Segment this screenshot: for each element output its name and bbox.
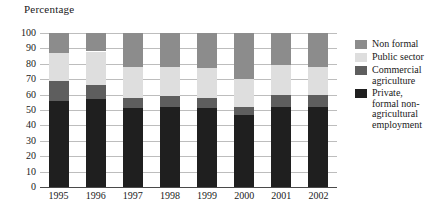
bar-2002[interactable] — [308, 33, 328, 187]
legend-label-public_sector: Public sector — [372, 52, 441, 63]
x-tick-2000: 2000 — [234, 190, 254, 201]
y-tick-50: 50 — [0, 105, 36, 115]
bar-segment — [160, 33, 180, 67]
bar-segment — [86, 52, 106, 86]
bar-segment — [308, 67, 328, 95]
bar-segment — [123, 98, 143, 109]
y-axis-title: Percentage — [24, 3, 74, 15]
x-tick-1998: 1998 — [160, 190, 180, 201]
y-tick-60: 60 — [0, 90, 36, 100]
bar-segment — [160, 67, 180, 96]
bar-segment — [308, 95, 328, 107]
bar-segment — [308, 33, 328, 67]
legend-swatch-public_sector — [355, 53, 367, 62]
bar-segment — [234, 79, 254, 107]
x-tick-1996: 1996 — [86, 190, 106, 201]
bar-segment — [86, 99, 106, 187]
y-tick-30: 30 — [0, 136, 36, 146]
bar-1997[interactable] — [123, 33, 143, 187]
bar-segment — [86, 85, 106, 99]
bar-segment — [197, 98, 217, 109]
legend-item-private_formal[interactable]: Private, formal non- agricultural employ… — [355, 88, 441, 130]
bar-1995[interactable] — [49, 33, 69, 187]
chart-figure: Percentage 1009080706050403020100 199519… — [0, 0, 442, 215]
bar-1996[interactable] — [86, 33, 106, 187]
bar-segment — [49, 53, 69, 81]
bar-segment — [308, 107, 328, 187]
x-tick-1997: 1997 — [123, 190, 143, 201]
x-axis-tick-labels: 19951996199719981999200020012002 — [40, 190, 337, 210]
legend-label-non_formal: Non formal — [372, 39, 441, 50]
bar-segment — [49, 81, 69, 101]
bar-segment — [123, 108, 143, 187]
x-tick-2001: 2001 — [271, 190, 291, 201]
legend-label-commercial_agriculture: Commercial agriculture — [372, 65, 441, 86]
bar-segment — [234, 33, 254, 79]
bar-1998[interactable] — [160, 33, 180, 187]
bar-segment — [271, 33, 291, 65]
y-tick-0: 0 — [0, 182, 36, 192]
legend-item-public_sector[interactable]: Public sector — [355, 52, 441, 63]
legend-item-commercial_agriculture[interactable]: Commercial agriculture — [355, 65, 441, 86]
x-tick-2002: 2002 — [308, 190, 328, 201]
bar-segment — [197, 108, 217, 187]
bar-segment — [123, 67, 143, 98]
bar-segment — [49, 33, 69, 53]
bar-1999[interactable] — [197, 33, 217, 187]
y-axis-tick-labels: 1009080706050403020100 — [0, 33, 36, 187]
bar-segment — [271, 95, 291, 107]
y-tick-80: 80 — [0, 59, 36, 69]
y-tick-10: 10 — [0, 167, 36, 177]
y-tick-20: 20 — [0, 151, 36, 161]
bar-group — [40, 33, 337, 187]
y-tick-90: 90 — [0, 43, 36, 53]
bar-segment — [234, 107, 254, 115]
bar-segment — [271, 107, 291, 187]
legend-label-private_formal: Private, formal non- agricultural employ… — [372, 88, 441, 130]
bar-segment — [160, 107, 180, 187]
x-tick-1995: 1995 — [49, 190, 69, 201]
bar-2000[interactable] — [234, 33, 254, 187]
bar-segment — [86, 33, 106, 51]
y-tick-70: 70 — [0, 74, 36, 84]
x-tick-1999: 1999 — [197, 190, 217, 201]
gridline-0 — [40, 187, 337, 188]
bar-segment — [234, 115, 254, 187]
bar-2001[interactable] — [271, 33, 291, 187]
legend-item-non_formal[interactable]: Non formal — [355, 39, 441, 50]
bar-segment — [197, 68, 217, 97]
legend-swatch-commercial_agriculture — [355, 66, 367, 75]
y-tick-100: 100 — [0, 28, 36, 38]
legend-swatch-private_formal — [355, 89, 367, 98]
bar-segment — [123, 33, 143, 67]
plot-area — [40, 33, 337, 187]
legend-swatch-non_formal — [355, 40, 367, 49]
y-tick-40: 40 — [0, 120, 36, 130]
bar-segment — [271, 65, 291, 94]
bar-segment — [160, 96, 180, 107]
bar-segment — [49, 101, 69, 187]
bar-segment — [197, 33, 217, 68]
chart-legend: Non formalPublic sectorCommercial agricu… — [355, 39, 441, 132]
